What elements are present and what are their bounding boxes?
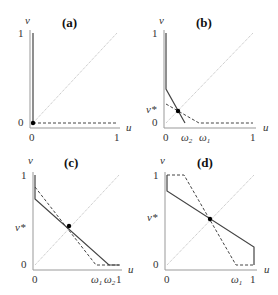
x-tick-omega1: ω1 [91, 273, 102, 287]
panel-title-b: (b) [196, 15, 212, 30]
panel-title-c: (c) [64, 155, 78, 170]
panel-d: (d) v u 1 v* 0 0 ω1 1 [147, 154, 270, 287]
y-tick-1: 1 [153, 169, 159, 181]
x-axis-label: u [126, 121, 132, 133]
y-tick-vstar: v* [15, 221, 26, 233]
figure-canvas: (a) v u 1 0 0 1 (b) v u 1 v* 0 0 ω2 ω1 1 [0, 0, 278, 295]
y-tick-1: 1 [18, 27, 24, 39]
y-tick-vstar: v* [146, 103, 157, 115]
x-axis-label: u [263, 121, 269, 133]
x-tick-1: 1 [250, 131, 256, 143]
x-tick-omega1: ω1 [199, 131, 210, 145]
y-tick-0: 0 [18, 116, 24, 128]
diagonal-line [35, 175, 119, 265]
panel-a: (a) v u 1 0 0 1 [18, 14, 132, 143]
x-tick-1: 1 [114, 131, 120, 143]
equilibrium-dot [208, 217, 212, 221]
y-axis-label: v [159, 14, 164, 26]
y-axis-label: v [28, 154, 33, 166]
y-tick-0: 0 [21, 258, 27, 270]
equilibrium-dot [31, 121, 35, 125]
x-tick-omega2: ω2 [104, 273, 116, 287]
y-axis-label: v [160, 154, 165, 166]
x-tick-omega1: ω1 [231, 273, 242, 287]
x-tick-0: 0 [29, 131, 35, 143]
diagonal-line [33, 33, 117, 123]
panel-title-d: (d) [197, 155, 213, 170]
x-tick-omega2: ω2 [181, 131, 193, 145]
dashed-curve [35, 187, 120, 265]
y-tick-1: 1 [152, 27, 158, 39]
y-tick-0: 0 [152, 116, 158, 128]
x-axis-label: u [264, 263, 270, 275]
y-tick-0: 0 [153, 258, 159, 270]
panel-b: (b) v u 1 v* 0 0 ω2 ω1 1 [146, 14, 269, 145]
x-axis-label: u [128, 263, 134, 275]
x-tick-1: 1 [250, 273, 256, 285]
y-axis-label: v [25, 14, 30, 26]
equilibrium-dot [67, 224, 71, 228]
x-tick-1: 1 [116, 273, 122, 285]
x-tick-0: 0 [163, 131, 169, 143]
panel-c: (c) v u 1 v* 0 0 ω1 ω2 1 [15, 154, 134, 287]
y-tick-1: 1 [21, 169, 27, 181]
x-tick-0: 0 [164, 273, 170, 285]
y-tick-vstar: v* [147, 211, 158, 223]
equilibrium-dot [176, 109, 180, 113]
panel-title-a: (a) [62, 15, 77, 30]
x-tick-0: 0 [32, 273, 38, 285]
